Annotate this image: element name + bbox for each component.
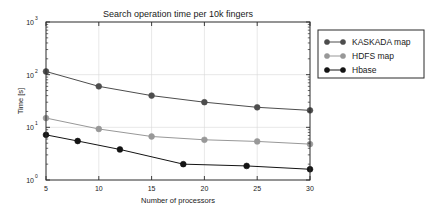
svg-text:10: 10 bbox=[26, 177, 34, 184]
chart-figure: 51015202530 100101102103 Search operatio… bbox=[0, 0, 432, 220]
data-point-marker bbox=[149, 93, 155, 99]
x-tick-label: 15 bbox=[148, 185, 156, 192]
y-tick-label: 100 bbox=[26, 173, 38, 184]
svg-text:0: 0 bbox=[35, 173, 38, 179]
legend-label: HDFS map bbox=[352, 51, 394, 61]
svg-text:2: 2 bbox=[35, 68, 38, 74]
svg-text:3: 3 bbox=[35, 15, 38, 21]
data-point-marker bbox=[96, 126, 102, 132]
data-point-marker bbox=[254, 139, 260, 145]
x-axis-label: Number of processors bbox=[141, 196, 215, 205]
legend-marker-icon bbox=[324, 67, 329, 72]
data-point-marker bbox=[75, 138, 81, 144]
y-axis-label: Time [s] bbox=[16, 88, 25, 114]
y-tick-labels: 100101102103 bbox=[26, 15, 38, 184]
data-point-marker bbox=[254, 104, 260, 110]
y-tick-label: 102 bbox=[26, 68, 38, 79]
svg-text:10: 10 bbox=[26, 19, 34, 26]
x-tick-label: 5 bbox=[44, 185, 48, 192]
x-tick-label: 20 bbox=[201, 185, 209, 192]
x-tick-label: 30 bbox=[306, 185, 314, 192]
svg-text:10: 10 bbox=[26, 124, 34, 131]
legend-label: Hbase bbox=[352, 65, 377, 75]
legend-marker-icon bbox=[340, 39, 345, 44]
legend: KASKADA mapHDFS mapHbase bbox=[318, 30, 424, 78]
x-tick-label: 25 bbox=[253, 185, 261, 192]
data-point-marker bbox=[202, 99, 208, 105]
data-point-marker bbox=[244, 163, 250, 169]
legend-marker-icon bbox=[324, 39, 329, 44]
chart-title: Search operation time per 10k fingers bbox=[103, 9, 254, 19]
y-tick-label: 101 bbox=[26, 120, 38, 131]
legend-marker-icon bbox=[324, 53, 329, 58]
svg-text:10: 10 bbox=[26, 72, 34, 79]
legend-label: KASKADA map bbox=[352, 37, 411, 47]
plot-background bbox=[46, 22, 310, 180]
x-tick-label: 10 bbox=[95, 185, 103, 192]
data-point-marker bbox=[202, 137, 208, 143]
x-tick-labels: 51015202530 bbox=[44, 185, 314, 192]
data-point-marker bbox=[96, 83, 102, 89]
svg-text:1: 1 bbox=[35, 120, 38, 126]
y-tick-label: 103 bbox=[26, 15, 38, 26]
data-point-marker bbox=[149, 134, 155, 140]
chart-canvas: 51015202530 100101102103 Search operatio… bbox=[0, 0, 432, 220]
data-point-marker bbox=[180, 161, 186, 167]
legend-marker-icon bbox=[340, 67, 345, 72]
legend-marker-icon bbox=[340, 53, 345, 58]
data-point-marker bbox=[117, 147, 123, 153]
